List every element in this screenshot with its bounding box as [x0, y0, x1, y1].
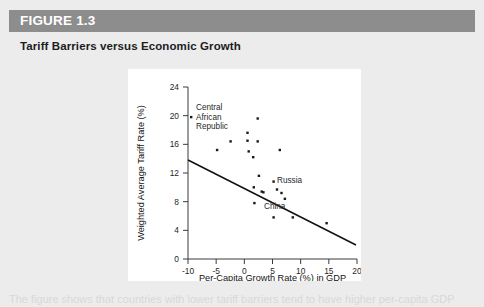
- data-point: [272, 216, 274, 218]
- data-point: [262, 191, 264, 193]
- y-tick-label-8: 8: [174, 197, 179, 207]
- data-point: [280, 192, 282, 194]
- y-tick-label-16: 16: [170, 139, 180, 149]
- data-point: [279, 149, 281, 151]
- data-point: [248, 150, 250, 152]
- data-point: [229, 140, 231, 142]
- y-tick-label-12: 12: [170, 168, 180, 178]
- data-point: [257, 140, 259, 142]
- data-point: [257, 117, 259, 119]
- figure-header-bar: FIGURE 1.3: [9, 10, 475, 32]
- annotation-china: China: [264, 202, 286, 211]
- scatter-points: [190, 116, 328, 224]
- figure-card: FIGURE 1.3 Tariff Barriers versus Econom…: [9, 10, 475, 288]
- chart-plot-panel: 24 20 16 12 8 4 0 -10 -5 0 5 10 15: [128, 69, 361, 281]
- annotation-central-african-republic-line1: Central: [196, 103, 223, 112]
- figure-title: Tariff Barriers versus Economic Growth: [20, 40, 241, 52]
- data-point: [246, 140, 248, 142]
- y-axis-title: Weighted Average Tariff Rate (%): [136, 105, 146, 241]
- scatter-chart: 24 20 16 12 8 4 0 -10 -5 0 5 10 15: [128, 69, 361, 281]
- y-tick-label-20: 20: [170, 111, 180, 121]
- x-axis-ticks: [188, 259, 357, 264]
- y-tick-label-24: 24: [170, 82, 180, 92]
- y-tick-label-0: 0: [174, 254, 179, 264]
- data-point: [276, 188, 278, 190]
- data-point: [258, 175, 260, 177]
- data-point: [190, 116, 192, 118]
- y-tick-label-4: 4: [174, 225, 179, 235]
- data-point: [252, 156, 254, 158]
- data-point: [253, 186, 255, 188]
- annotation-russia: Russia: [277, 176, 302, 185]
- annotation-central-african-republic-line2: African: [196, 113, 222, 122]
- y-axis-ticks: [183, 87, 188, 259]
- data-point: [325, 222, 327, 224]
- data-point: [284, 198, 286, 200]
- annotation-central-african-republic-line3: Republic: [196, 122, 228, 131]
- x-axis-title: Per-Capita Growth Rate (%) in GDP: [199, 273, 346, 281]
- x-tick-label-20: 20: [352, 266, 361, 276]
- data-point: [272, 180, 274, 182]
- x-tick-label-neg10: -10: [182, 266, 194, 276]
- data-point: [216, 149, 218, 151]
- data-point: [292, 216, 294, 218]
- data-point: [246, 132, 248, 134]
- caption-text-fragment: The figure shows that countries with low…: [9, 293, 475, 307]
- figure-number-label: FIGURE 1.3: [20, 13, 96, 28]
- data-point: [253, 202, 255, 204]
